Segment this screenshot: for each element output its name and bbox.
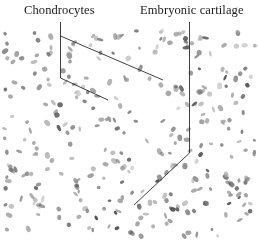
histology-figure: Chondrocytes Embryonic cartilage xyxy=(0,0,259,241)
chondrocytes-label: Chondrocytes xyxy=(24,3,95,18)
embryonic-cartilage-label: Embryonic cartilage xyxy=(140,3,244,18)
chondrocyte-nuclei xyxy=(1,28,257,240)
cartilage-micrograph xyxy=(0,0,259,241)
